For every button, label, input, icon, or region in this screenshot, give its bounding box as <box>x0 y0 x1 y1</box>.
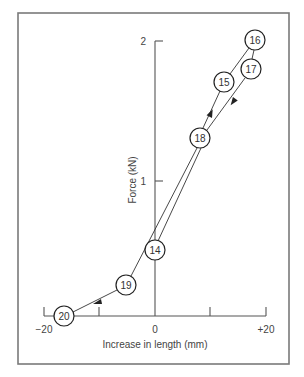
point-14: 14 <box>145 240 165 260</box>
svg-text:18: 18 <box>194 133 206 144</box>
svg-text:20: 20 <box>58 311 70 322</box>
y-tick-label-1: 1 <box>140 176 146 187</box>
point-17: 17 <box>241 59 261 79</box>
point-16: 16 <box>245 30 265 50</box>
x-tick-label-plus20: +20 <box>258 324 275 335</box>
point-20: 20 <box>54 306 74 326</box>
svg-text:19: 19 <box>120 280 132 291</box>
chart: 2 1 Force (kN) −20 0 +20 Increase in len… <box>0 0 304 377</box>
svg-text:14: 14 <box>149 245 161 256</box>
svg-text:16: 16 <box>249 35 261 46</box>
svg-text:17: 17 <box>245 64 257 75</box>
x-tick-label-0: 0 <box>152 324 158 335</box>
point-19: 19 <box>116 275 136 295</box>
x-axis-title: Increase in length (mm) <box>102 339 207 350</box>
point-18: 18 <box>190 128 210 148</box>
svg-text:15: 15 <box>218 77 230 88</box>
y-axis-title: Force (kN) <box>127 156 138 203</box>
y-tick-label-2: 2 <box>140 36 146 47</box>
point-15: 15 <box>214 72 234 92</box>
x-tick-label-minus20: −20 <box>36 324 53 335</box>
